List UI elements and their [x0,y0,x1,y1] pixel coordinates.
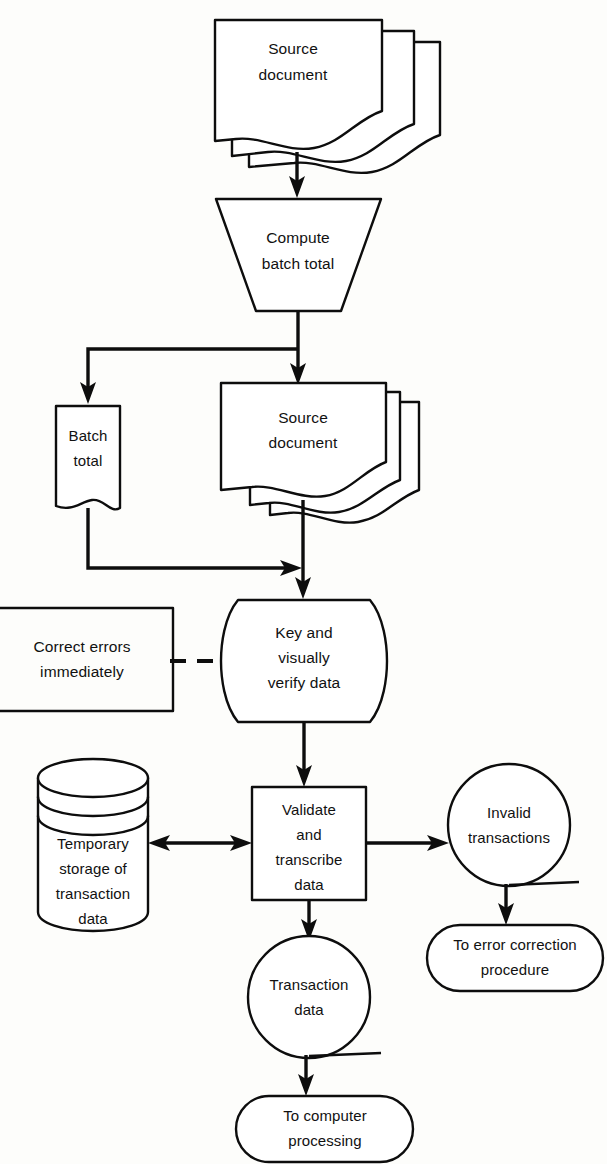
connector-key-verify-to-validate [296,722,312,787]
flowchart-canvas: Source document Compute batch total Batc… [0,0,607,1164]
node-label-line1: Key and [275,624,333,641]
node-key-and-verify[interactable]: Key and visually verify data [221,600,387,722]
connector-batch-total-to-merge [88,508,302,576]
node-label-line1: To error correction [453,936,577,953]
node-label-line1: Correct errors [34,638,131,655]
node-label-line1: Temporary [57,835,129,852]
node-label-line3: verify data [268,674,341,691]
node-validate-and-transcribe[interactable]: Validate and transcribe data [252,787,366,900]
node-label-line2: procedure [481,961,549,978]
terminator-stadium [236,1096,413,1162]
node-source-document-second[interactable]: Source document [221,383,419,523]
open-annotation-shape [0,608,173,711]
node-source-document-top[interactable]: Source document [215,20,440,173]
node-label-line1: Source [278,409,328,426]
node-label-line2: data [294,1001,324,1018]
node-label-line1: To computer [283,1107,367,1124]
node-correct-errors[interactable]: Correct errors immediately [0,608,173,711]
node-label-line4: data [294,876,324,893]
cylinder-disk-top [38,759,148,797]
connector-invalid-to-error-correction [498,882,579,925]
flowchart-svg: Source document Compute batch total Batc… [0,0,607,1164]
node-label-line2: document [269,434,338,451]
node-label-line1: Compute [266,229,330,246]
node-to-computer-processing[interactable]: To computer processing [236,1096,413,1162]
node-label-line1: Batch [69,427,108,444]
cylinder-body [38,778,148,931]
node-batch-total[interactable]: Batch total [56,406,120,509]
node-label-line3: transaction [56,885,130,902]
node-invalid-transactions[interactable]: Invalid transactions [448,764,570,886]
node-label-line2: processing [288,1132,362,1149]
node-temporary-storage[interactable]: Temporary storage of transaction data [38,759,148,931]
node-label-line2: visually [278,649,330,666]
node-label-line1: Transaction [270,976,349,993]
connector-circle [448,764,570,886]
node-label-line2: immediately [40,663,124,680]
node-transaction-data[interactable]: Transaction data [248,936,370,1058]
terminator-stadium [427,925,603,991]
connector-circle [248,936,370,1058]
node-label-line4: data [78,910,108,927]
node-label-line2: storage of [59,860,127,877]
node-label-line2: total [74,452,103,469]
node-label-line2: document [259,66,328,83]
node-compute-batch-total[interactable]: Compute batch total [216,199,381,311]
node-label-line1: Invalid [487,804,531,821]
connector-validate-to-invalid [366,835,449,851]
node-label-line1: Validate [282,801,336,818]
node-to-error-correction[interactable]: To error correction procedure [427,925,603,991]
connector-transaction-data-to-computer [298,1053,381,1096]
node-label-line2: transactions [468,829,550,846]
node-label-line1: Source [268,40,318,57]
node-label-line2: and [296,826,321,843]
node-label-line3: transcribe [276,851,343,868]
connector-validate-to-storage [148,835,252,851]
node-label-line2: batch total [262,255,335,272]
